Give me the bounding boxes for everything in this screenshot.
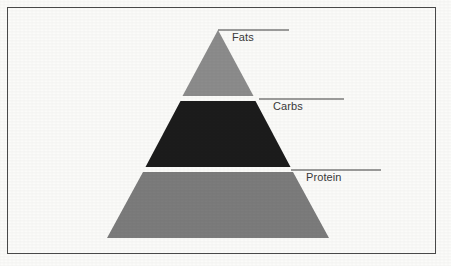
pyramid-segment-carbs[interactable] — [146, 101, 291, 167]
pyramid-plot-area — [0, 0, 451, 266]
pyramid-svg — [0, 0, 451, 266]
segment-label-carbs: Carbs — [273, 100, 303, 113]
segment-label-protein: Protein — [306, 171, 342, 184]
pyramid-chart-canvas: Fats Carbs Protein — [0, 0, 451, 266]
segment-label-fats: Fats — [232, 31, 254, 44]
pyramid-segment-protein[interactable] — [107, 172, 329, 238]
